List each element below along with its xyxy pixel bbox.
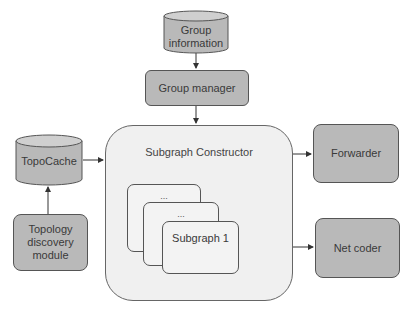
group-manager-label: Group manager bbox=[158, 82, 235, 95]
ellipsis-label: ... bbox=[128, 191, 200, 201]
net-coder-label: Net coder bbox=[334, 242, 382, 255]
subgraph-card-front: Subgraph 1 bbox=[162, 221, 239, 274]
net-coder-node: Net coder bbox=[315, 218, 400, 278]
ellipsis-label: ... bbox=[144, 209, 218, 219]
topocache-label: TopoCache bbox=[15, 155, 83, 168]
group-information-label-2: information bbox=[163, 37, 229, 50]
forwarder-node: Forwarder bbox=[313, 124, 399, 183]
topocache-node: TopoCache bbox=[15, 134, 83, 186]
group-information-node: Group information bbox=[163, 10, 229, 54]
subgraph-constructor-title: Subgraph Constructor bbox=[106, 146, 292, 158]
topology-discovery-label-2: discovery bbox=[27, 236, 73, 249]
topology-discovery-label-1: Topology bbox=[28, 223, 72, 236]
group-manager-node: Group manager bbox=[145, 70, 249, 106]
topology-discovery-node: Topology discovery module bbox=[13, 214, 88, 271]
group-information-label-1: Group bbox=[163, 24, 229, 37]
forwarder-label: Forwarder bbox=[331, 147, 381, 160]
topology-discovery-label-3: module bbox=[32, 249, 68, 262]
subgraph-1-label: Subgraph 1 bbox=[163, 232, 238, 244]
